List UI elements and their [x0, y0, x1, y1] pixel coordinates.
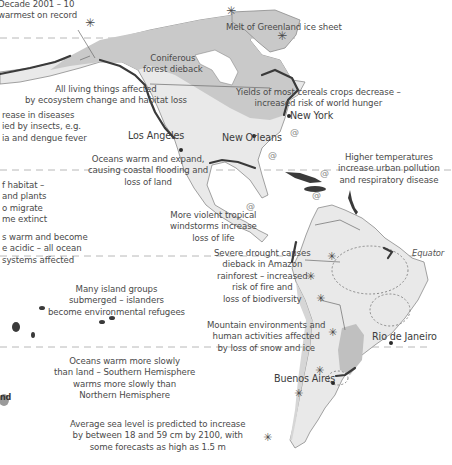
- annotation-coniferous: Coniferous forest dieback: [143, 53, 203, 76]
- city-buenos-aires: Buenos Aires: [274, 373, 335, 384]
- annotation-diseases: rease in diseases ied by insects, e.g. i…: [2, 110, 87, 144]
- annotation-mountain: Mountain environments and human activiti…: [207, 320, 325, 354]
- city-new-orleans: New Orleans: [222, 132, 282, 143]
- pampas-zone: [338, 324, 364, 375]
- hurricane-icon-1: @: [290, 127, 299, 138]
- asterisk-icon-andes-7: ✳: [263, 432, 272, 443]
- annotation-decade: Decade 2001 – 10 warmest on record: [0, 0, 77, 22]
- equator-label: Equator: [412, 248, 444, 259]
- city-rio-de-janeiro: Rio de Janeiro: [372, 331, 437, 342]
- hurricane-icon-2: @: [268, 150, 277, 161]
- annotation-southern-hemisphere: Oceans warm more slowly than land – Sout…: [54, 356, 195, 402]
- asterisk-icon-andes-1: ✳: [327, 251, 336, 262]
- annotation-windstorms: More violent tropical windstorms increas…: [170, 210, 257, 244]
- asterisk-icon-arctic: ✳: [85, 18, 95, 29]
- annotation-living-things: All living things affected by ecosystem …: [25, 84, 187, 107]
- annotation-greenland: Melt of Greenland ice sheet: [226, 22, 342, 33]
- hurricane-icon-4: @: [312, 190, 321, 201]
- city-los-angeles: Los Angeles: [128, 130, 184, 141]
- annotation-habitat: f habitat – and plants o migrate me exti…: [2, 180, 47, 226]
- asterisk-icon-andes-3: ✳: [316, 293, 325, 304]
- asterisk-icon-andes-4: ✳: [328, 327, 337, 338]
- annotation-crops: Yields of most cereals crops decrease – …: [236, 87, 401, 110]
- annotation-drought: Severe drought causes dieback in Amazon …: [214, 248, 311, 305]
- asterisk-icon-andes-6: ✳: [294, 388, 303, 399]
- new-zealand-label-fragment: nd: [0, 392, 11, 403]
- annotation-islands: Many island groups submerged – islanders…: [48, 284, 185, 318]
- annotation-higher-temps: Higher temperatures increase urban pollu…: [338, 152, 440, 186]
- annotation-sea-level: Average sea level is predicted to increa…: [70, 419, 245, 453]
- city-new-york: New York: [290, 110, 333, 121]
- annotation-oceans-expand: Oceans warm and expand, causing coastal …: [88, 154, 208, 188]
- asterisk-icon-greenland-1: ✳: [226, 6, 236, 17]
- annotation-acidic: s warm and become e acidic – all ocean s…: [2, 232, 88, 266]
- hurricane-icon-3: @: [320, 168, 329, 179]
